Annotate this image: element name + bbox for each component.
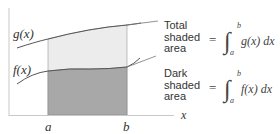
dark-area-annotation: Dark shaded area = ∫ b a f(x) dx: [164, 67, 273, 105]
dark-lower-limit: a: [230, 96, 234, 105]
total-eq-sign: =: [209, 32, 216, 47]
dark-label-line3: area: [164, 90, 187, 102]
total-upper-limit: b: [237, 21, 241, 30]
x-axis-label: x: [180, 108, 187, 122]
total-lower-limit: a: [230, 48, 234, 57]
total-label-line1: Total: [164, 19, 187, 31]
b-label: b: [123, 119, 130, 134]
f-label: f(x): [13, 62, 31, 77]
g-label: g(x): [13, 26, 34, 41]
area-between-curves-diagram: g(x) f(x) a b x Total shaded area = ∫ b …: [0, 0, 280, 134]
a-label: a: [45, 119, 52, 134]
dark-shaded-region: [48, 67, 127, 115]
dark-leader-line: [127, 56, 156, 67]
dark-integrand: f(x) dx: [241, 82, 273, 96]
dark-upper-limit: b: [237, 69, 241, 78]
total-integrand: g(x) dx: [241, 34, 275, 48]
dark-label-line1: Dark: [164, 67, 188, 79]
total-label-line3: area: [164, 42, 187, 54]
total-area-annotation: Total shaded area = ∫ b a g(x) dx: [164, 19, 275, 57]
dark-eq-sign: =: [209, 80, 216, 95]
total-leader-line: [127, 21, 158, 25]
